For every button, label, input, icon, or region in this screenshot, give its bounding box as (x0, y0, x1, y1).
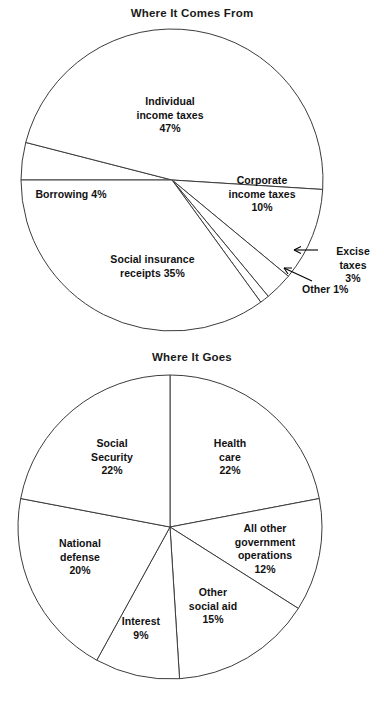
pie-svg-where-goes (0, 345, 384, 701)
pie-label-social-security: Social Security 22% (72, 437, 152, 478)
pie-label-other: Other 1% (302, 283, 376, 297)
pie-label-all-other-government-operations: All other government operations 12% (212, 522, 318, 576)
pie-label-social-insurance-receipts: Social insurance receipts 35% (90, 253, 215, 280)
pie-label-individual-income-taxes: Individual income taxes 47% (110, 95, 230, 136)
pie-chart-where-it-comes-from: Where It Comes From Individual income ta… (0, 0, 384, 345)
pie-label-interest: Interest 9% (104, 615, 178, 642)
pie-chart-where-it-goes: Where It Goes Health care 22% All other … (0, 345, 384, 701)
pie-label-other-social-aid: Other social aid 15% (172, 586, 254, 627)
pie-label-national-defense: National defense 20% (40, 537, 120, 578)
pie-label-corporate-income-taxes: Corporate income taxes 10% (207, 174, 317, 215)
pie-label-borrowing: Borrowing 4% (22, 188, 120, 202)
pie-label-excise-taxes: Excise taxes 3% (322, 245, 384, 286)
pie-label-health-care: Health care 22% (190, 437, 270, 478)
